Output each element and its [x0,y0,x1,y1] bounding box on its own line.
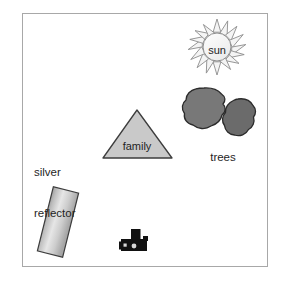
camera-grip-icon [119,242,122,250]
camera-icon [119,229,148,251]
sun-label-wrap: sun [199,40,235,58]
family-label: family [123,140,152,152]
camera-prism-icon [131,229,141,240]
camera-button-icon [124,244,127,247]
trees-label: trees [210,151,236,163]
sun-label: sun [208,44,226,56]
silver-reflector-label-line1: silver [34,166,104,180]
camera-flash-icon [143,236,148,241]
silver-reflector-label: silver reflector [34,139,104,248]
tree-blob-right-icon [223,99,256,136]
family-label-wrap: family [112,136,162,154]
tree-blob-left-icon [182,88,225,129]
trees-icon [182,88,255,136]
diagram-canvas: sun trees family silver reflector [0,0,288,287]
silver-reflector-label-wrap: silver reflector [34,139,104,248]
trees-label-wrap: trees [200,147,246,165]
camera-lens-icon [132,244,137,249]
silver-reflector-label-line2: reflector [34,207,104,221]
